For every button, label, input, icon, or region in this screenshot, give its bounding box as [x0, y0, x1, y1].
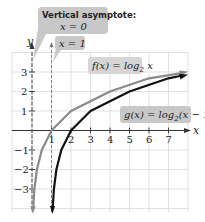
curve-g-arrow-bottom-icon [50, 206, 55, 214]
log-graph: x y 1 2 3 4 5 6 7 3 2 1 −1 −2 −3 [0, 0, 205, 222]
x-axis-label: x [193, 124, 200, 137]
callout-f-main: f(x) = log [91, 60, 140, 71]
curve-f-arrow-bottom-icon [31, 206, 36, 214]
callout-f-label: f(x) = log2 x [88, 57, 153, 74]
callout-asymptote-x1: x = 1 [53, 36, 86, 62]
y-tick-label-2: 2 [21, 86, 27, 97]
callout-g-tail: (x − 1) [179, 109, 205, 120]
asymptote-x1-arrow-icon [50, 42, 54, 47]
callout-asymptote-x0-line1: Vertical asymptote: [42, 10, 136, 20]
x-axis-arrow-icon [184, 128, 191, 133]
y-tick-label-neg2: −2 [14, 164, 29, 175]
callout-g-main: g(x) = log [124, 109, 174, 120]
x-tick-label-7: 7 [166, 134, 172, 145]
x-tick-label-5: 5 [127, 134, 133, 145]
x-tick-label-6: 6 [146, 134, 152, 145]
callout-asymptote-x1-text: x = 1 [59, 38, 86, 49]
callout-g-label: g(x) = log2(x − 1) [120, 106, 205, 123]
callout-asymptote-x0-line2: x = 0 [60, 21, 87, 32]
y-tick-label-3: 3 [21, 67, 27, 78]
callout-asymptote-x0: Vertical asymptote: x = 0 [33, 7, 136, 60]
y-tick-label-neg1: −1 [14, 145, 29, 156]
x-tick-label-4: 4 [107, 134, 113, 145]
callout-f-tail: x [144, 60, 153, 71]
y-tick-label-1: 1 [21, 106, 27, 117]
y-axis-label: y [26, 35, 34, 48]
y-tick-label-neg3: −3 [14, 184, 29, 195]
curve-g-arrow-top-icon [179, 74, 188, 80]
x-tick-label-3: 3 [88, 134, 94, 145]
